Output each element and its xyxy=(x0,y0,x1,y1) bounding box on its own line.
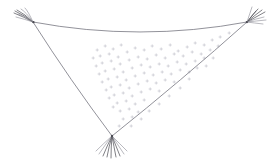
left-knot-dot xyxy=(32,21,34,23)
bottom-knot-dot xyxy=(111,135,113,137)
triangular-net-drawing xyxy=(0,0,278,164)
right-knot-dot xyxy=(246,21,248,23)
image-canvas xyxy=(0,0,278,164)
background xyxy=(0,0,278,164)
